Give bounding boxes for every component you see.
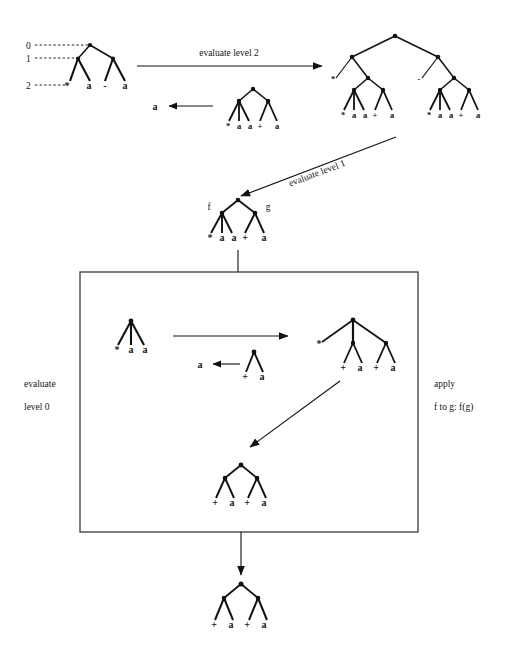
tree-edge xyxy=(239,101,249,121)
tree-leaf: + xyxy=(244,619,250,630)
level-label-1: 1 xyxy=(26,54,31,64)
tree-edge xyxy=(222,200,238,213)
tree-edge xyxy=(215,598,224,620)
level-rulers: 0 1 2 xyxy=(26,41,88,91)
tree-edge xyxy=(222,213,232,233)
tree-leaf: + xyxy=(258,121,263,131)
tree-edge xyxy=(224,584,241,598)
tree-leaf: a xyxy=(123,80,128,91)
tree-leaf: a xyxy=(352,110,357,120)
box-label-right-line1: apply xyxy=(434,379,455,389)
tree-edge xyxy=(90,45,113,59)
evaluate-level-0-box xyxy=(80,272,418,532)
tree-edge xyxy=(78,45,90,59)
tree-leaf: a xyxy=(391,362,396,373)
tree-edge xyxy=(353,343,362,363)
tree-edge xyxy=(336,57,352,78)
tree-leaf: a xyxy=(262,619,267,630)
tree-edge xyxy=(131,321,144,345)
tree-edge xyxy=(322,320,353,342)
reduction-result: a xyxy=(198,359,203,370)
tree-edge xyxy=(469,90,478,110)
tree-leaf: + xyxy=(340,362,346,373)
tree-edge xyxy=(246,352,254,372)
tree-leaf: a xyxy=(87,80,92,91)
tree-edge xyxy=(454,78,469,90)
tree-edge xyxy=(241,584,258,598)
diagram-canvas: 0 1 2 * a - a xyxy=(0,0,511,653)
tree-edge xyxy=(254,352,263,372)
tree-edge xyxy=(211,213,222,233)
box-label-left-line1: evaluate xyxy=(24,379,56,389)
tree-edge xyxy=(253,89,268,101)
tree-edge xyxy=(238,200,255,213)
level-label-0: 0 xyxy=(26,41,31,51)
tree-leaf: a xyxy=(363,110,368,120)
tree-leaf: * xyxy=(226,121,230,131)
tree-edge xyxy=(375,90,383,110)
tree-edge xyxy=(255,213,264,233)
tree-edge xyxy=(225,465,241,478)
tree-leaf: - xyxy=(103,80,106,91)
tree-leaf: + xyxy=(373,110,378,120)
tree-edge xyxy=(257,478,266,498)
tree-leaf: a xyxy=(275,121,280,131)
tree-leaf: a xyxy=(220,232,225,243)
tree-edge xyxy=(258,598,267,620)
tree-edge xyxy=(225,478,234,498)
tree-edge xyxy=(386,343,395,363)
tree-leaf: + xyxy=(242,232,248,243)
tree-edge xyxy=(368,78,383,90)
tree-leaf: * xyxy=(427,110,431,120)
tree-leaf: + xyxy=(212,497,218,508)
box-label-left-line2: level 0 xyxy=(24,402,50,412)
reduction-inner: a + a xyxy=(198,350,265,382)
tree-final-result: + a + a xyxy=(211,582,267,631)
tree-box-bottom: + a + a xyxy=(212,463,266,508)
tree-box-left: * a a xyxy=(115,319,148,355)
tree-edge xyxy=(105,59,113,82)
tree-leaf: + xyxy=(242,371,248,382)
tree-edge xyxy=(383,90,392,110)
tree-leaf: a xyxy=(260,371,265,382)
tree-edge xyxy=(70,59,78,82)
tree-edge xyxy=(248,478,257,498)
tree-leaf: + xyxy=(211,619,217,630)
tree-leaf: a xyxy=(248,121,253,131)
tree-leaf: a xyxy=(232,232,237,243)
tree-edge xyxy=(440,78,454,90)
tree-edge xyxy=(352,36,395,57)
tree-edge xyxy=(78,59,90,82)
tree-leaf: * xyxy=(65,80,70,91)
tree-leaf: a xyxy=(262,497,267,508)
tree-edge xyxy=(352,57,368,78)
tree-leaf: + xyxy=(373,362,379,373)
tree-leaf: * xyxy=(115,344,120,355)
tree-edge xyxy=(113,59,125,82)
tree-edge xyxy=(395,36,438,57)
tree-leaf: a xyxy=(129,344,134,355)
tree-edge xyxy=(260,101,268,121)
tree-leaf: a xyxy=(143,344,148,355)
tree-leaf: + xyxy=(459,110,464,120)
tree-leaf: a xyxy=(476,110,481,120)
arrow-evaluate-level-2: evaluate level 2 xyxy=(137,48,322,66)
tree-edge xyxy=(229,101,239,121)
reduction-result: a xyxy=(153,101,158,112)
tree-edge xyxy=(430,90,440,110)
box-label-right-line2: f to g: f(g) xyxy=(434,402,473,413)
tree-edge xyxy=(239,89,253,101)
tree-edge xyxy=(216,478,225,498)
tree-edge xyxy=(344,90,354,110)
tree-leaf: a xyxy=(449,110,454,120)
tree-leaf: a xyxy=(358,362,363,373)
arrow-evaluate-level-1: evaluate level 1 xyxy=(241,137,396,196)
source-expression-tree: * a - a xyxy=(65,43,128,91)
tree-leaf: a xyxy=(229,619,234,630)
reduction-top: a * a a + a xyxy=(153,87,280,131)
tree-leaf: * xyxy=(317,338,322,349)
expanded-tree-level-2: * * a a + a - xyxy=(331,34,481,120)
branch-label-star: * xyxy=(331,74,335,84)
tree-edge xyxy=(354,78,368,90)
tree-edge xyxy=(118,321,131,345)
